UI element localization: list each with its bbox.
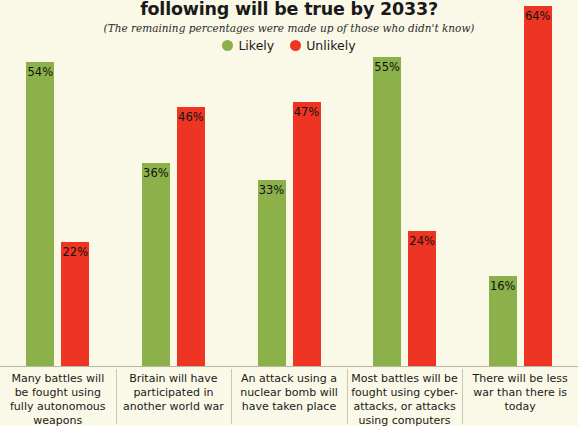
bar-group: 55%24%	[373, 0, 436, 366]
bar-group: 54%22%	[26, 0, 89, 366]
bar-value-label: 55%	[373, 61, 401, 73]
bar-group: 33%47%	[258, 0, 321, 366]
bar-likely[interactable]: 55%	[373, 57, 401, 366]
category-label-cell: Many battles will be fought using fully …	[0, 367, 116, 426]
category-label: Britain will have participated in anothe…	[119, 372, 229, 414]
bar-likely[interactable]: 16%	[489, 276, 517, 366]
bar-value-label: 33%	[258, 184, 286, 196]
bar-group: 36%46%	[142, 0, 205, 366]
category-label-cell: Most battles will be fought using cyber-…	[347, 367, 463, 426]
bar-value-label: 46%	[177, 111, 205, 123]
category-label: Many battles will be fought using fully …	[3, 372, 113, 426]
category-axis: Many battles will be fought using fully …	[0, 367, 578, 426]
bar-value-label: 36%	[142, 167, 170, 179]
plot-area: 54%22%36%46%33%47%55%24%16%64%	[0, 0, 578, 366]
bar-value-label: 54%	[26, 66, 54, 78]
bar-unlikely[interactable]: 46%	[177, 107, 205, 366]
bar-unlikely[interactable]: 64%	[524, 6, 552, 366]
bar-value-label: 64%	[524, 10, 552, 22]
bar-group: 16%64%	[489, 0, 552, 366]
bar-value-label: 22%	[61, 246, 89, 258]
bar-chart: following will be true by 2033? (The rem…	[0, 0, 578, 426]
bar-unlikely[interactable]: 24%	[408, 231, 436, 366]
category-label: There will be less war than there is tod…	[465, 372, 575, 414]
bar-likely[interactable]: 33%	[258, 180, 286, 366]
bar-unlikely[interactable]: 22%	[61, 242, 89, 366]
category-label: Most battles will be fought using cyber-…	[350, 372, 460, 426]
category-label-cell: There will be less war than there is tod…	[462, 367, 578, 426]
bar-value-label: 16%	[489, 280, 517, 292]
category-label-cell: An attack using a nuclear bomb will have…	[231, 367, 347, 426]
bar-value-label: 24%	[408, 235, 436, 247]
bar-unlikely[interactable]: 47%	[293, 102, 321, 366]
bar-likely[interactable]: 54%	[26, 62, 54, 366]
category-label: An attack using a nuclear bomb will have…	[234, 372, 344, 414]
category-label-cell: Britain will have participated in anothe…	[116, 367, 232, 426]
bar-likely[interactable]: 36%	[142, 163, 170, 366]
bar-value-label: 47%	[293, 106, 321, 118]
